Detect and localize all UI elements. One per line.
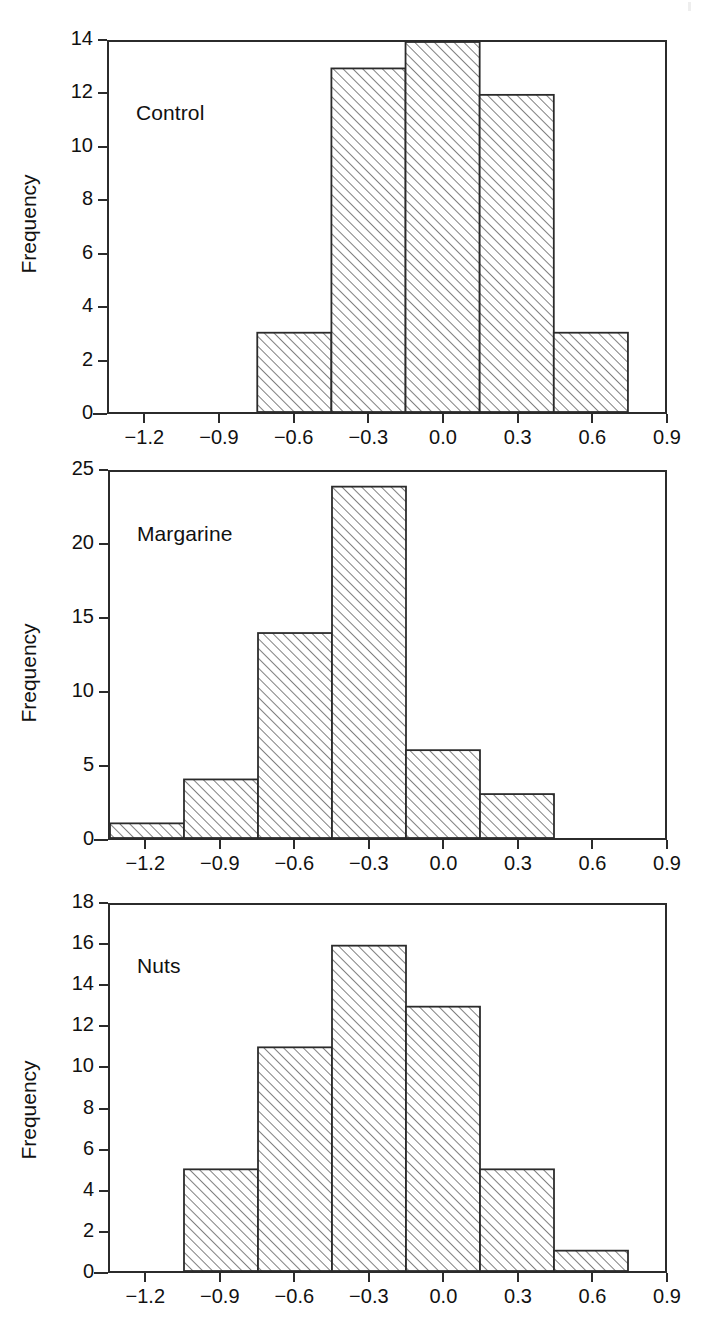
y-tick-label: 8 bbox=[28, 1096, 94, 1119]
y-tick-label: 14 bbox=[28, 972, 94, 995]
x-tick-mark bbox=[144, 840, 146, 849]
y-tick-label: 10 bbox=[28, 1054, 94, 1077]
y-tick-label: 8 bbox=[27, 187, 93, 210]
x-tick-label: 0.9 bbox=[617, 426, 717, 449]
histogram-bar bbox=[332, 946, 406, 1271]
x-tick-mark bbox=[591, 414, 593, 423]
x-tick-mark bbox=[293, 840, 295, 849]
histogram-figure: Frequency Control 02468101214 −1.2−0.9−0… bbox=[0, 0, 718, 1326]
y-tick-label: 16 bbox=[28, 931, 94, 954]
x-tick-mark bbox=[666, 1273, 668, 1282]
x-tick-mark bbox=[219, 840, 221, 849]
x-tick-mark bbox=[368, 840, 370, 849]
y-tick-label: 2 bbox=[28, 1219, 94, 1242]
plot-area-nuts bbox=[108, 903, 667, 1273]
y-tick-label: 0 bbox=[28, 1260, 94, 1283]
x-tick-mark bbox=[143, 414, 145, 423]
x-tick-mark bbox=[442, 1273, 444, 1282]
bars-nuts bbox=[110, 905, 665, 1271]
histogram-bar bbox=[480, 794, 554, 838]
y-tick-label: 0 bbox=[27, 401, 93, 424]
histogram-bar bbox=[480, 1169, 554, 1271]
y-tick-mark bbox=[99, 617, 108, 619]
histogram-bar bbox=[406, 750, 480, 838]
panel-title-nuts: Nuts bbox=[137, 954, 181, 978]
x-tick-mark bbox=[218, 414, 220, 423]
y-tick-label: 10 bbox=[27, 134, 93, 157]
y-tick-mark bbox=[98, 39, 107, 41]
y-tick-mark bbox=[99, 984, 108, 986]
x-tick-mark bbox=[293, 1273, 295, 1282]
x-tick-mark bbox=[591, 1273, 593, 1282]
x-tick-mark bbox=[517, 1273, 519, 1282]
y-tick-label: 25 bbox=[28, 457, 94, 480]
y-tick-mark bbox=[99, 765, 108, 767]
histogram-bar bbox=[554, 333, 628, 412]
y-tick-mark bbox=[99, 1231, 108, 1233]
x-tick-label: 0.9 bbox=[617, 1285, 717, 1308]
y-tick-mark bbox=[99, 1108, 108, 1110]
y-tick-mark bbox=[99, 543, 108, 545]
histogram-bar bbox=[110, 823, 184, 838]
y-tick-label: 4 bbox=[28, 1178, 94, 1201]
panel-title-control: Control bbox=[136, 101, 204, 125]
y-tick-mark bbox=[98, 360, 107, 362]
y-tick-label: 6 bbox=[28, 1137, 94, 1160]
y-tick-label: 20 bbox=[28, 531, 94, 554]
x-tick-mark bbox=[219, 1273, 221, 1282]
x-axis-line bbox=[94, 1272, 108, 1274]
y-tick-label: 5 bbox=[28, 753, 94, 776]
histogram-bar bbox=[332, 487, 406, 838]
panel-margarine: Frequency Margarine 0510152025 −1.2−0.9−… bbox=[0, 450, 718, 890]
y-tick-mark bbox=[98, 92, 107, 94]
y-tick-label: 2 bbox=[27, 348, 93, 371]
histogram-bar bbox=[554, 1251, 628, 1271]
y-tick-mark bbox=[99, 469, 108, 471]
y-tick-mark bbox=[98, 146, 107, 148]
histogram-bar bbox=[480, 95, 554, 412]
x-tick-mark bbox=[368, 1273, 370, 1282]
x-tick-label: 0.9 bbox=[617, 852, 717, 875]
histogram-bar bbox=[258, 1047, 332, 1271]
x-tick-mark bbox=[517, 840, 519, 849]
histogram-bar bbox=[257, 333, 331, 412]
histogram-bar bbox=[184, 779, 258, 838]
y-tick-label: 12 bbox=[27, 80, 93, 103]
y-tick-mark bbox=[99, 691, 108, 693]
x-axis-line bbox=[93, 413, 107, 415]
y-tick-label: 18 bbox=[28, 890, 94, 913]
y-tick-label: 0 bbox=[28, 827, 94, 850]
histogram-bar bbox=[331, 68, 405, 412]
histogram-bar bbox=[184, 1169, 258, 1271]
y-tick-mark bbox=[99, 1190, 108, 1192]
histogram-bar bbox=[406, 42, 480, 412]
panel-nuts: Frequency Nuts 024681012141618 −1.2−0.9−… bbox=[0, 890, 718, 1326]
panel-title-margarine: Margarine bbox=[137, 522, 232, 546]
y-tick-mark bbox=[99, 1025, 108, 1027]
y-tick-mark bbox=[99, 902, 108, 904]
y-tick-mark bbox=[98, 199, 107, 201]
y-tick-mark bbox=[99, 943, 108, 945]
x-tick-mark bbox=[442, 414, 444, 423]
x-tick-mark bbox=[293, 414, 295, 423]
y-tick-label: 10 bbox=[28, 679, 94, 702]
x-tick-mark bbox=[666, 840, 668, 849]
x-tick-mark bbox=[517, 414, 519, 423]
plot-area-control bbox=[107, 40, 667, 414]
y-tick-mark bbox=[98, 306, 107, 308]
x-tick-mark bbox=[144, 1273, 146, 1282]
x-tick-mark bbox=[591, 840, 593, 849]
bars-control bbox=[109, 42, 665, 412]
histogram-bar bbox=[406, 1007, 480, 1271]
y-axis-label-control: Frequency bbox=[17, 154, 41, 294]
y-tick-mark bbox=[99, 1066, 108, 1068]
panel-control: Frequency Control 02468101214 −1.2−0.9−0… bbox=[0, 0, 718, 450]
y-tick-mark bbox=[99, 1149, 108, 1151]
x-tick-mark bbox=[367, 414, 369, 423]
y-tick-label: 4 bbox=[27, 294, 93, 317]
histogram-bar bbox=[258, 633, 332, 838]
y-tick-label: 6 bbox=[27, 241, 93, 264]
x-axis-line bbox=[94, 839, 108, 841]
x-tick-mark bbox=[442, 840, 444, 849]
x-tick-mark bbox=[666, 414, 668, 423]
